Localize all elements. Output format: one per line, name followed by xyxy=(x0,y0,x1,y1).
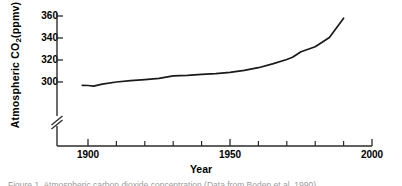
figure-caption: Figure 1. Atmospheric carbon dioxide con… xyxy=(8,180,338,186)
co2-line-series xyxy=(82,18,343,86)
co2-figure: Atmospheric CO2(ppmv) 360 340 320 300 19… xyxy=(0,0,402,186)
y-tick-marks xyxy=(57,16,63,82)
plot-area xyxy=(0,0,402,186)
x-tick-marks-major xyxy=(88,139,372,146)
